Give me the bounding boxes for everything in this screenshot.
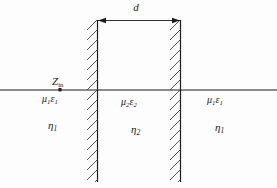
dimension-arrowhead-right <box>172 18 180 23</box>
label-mu2-eps2-middle: μ2ε2 <box>121 97 137 108</box>
label-eta2-middle: η2 <box>131 124 140 136</box>
label-thickness-d: d <box>133 2 139 13</box>
label-mu1-eps1-left: μ1ε1 <box>42 94 58 105</box>
left-wall <box>87 19 98 188</box>
dimension-line-d <box>98 18 180 23</box>
right-wall <box>170 19 181 188</box>
dielectric-slab-figure: d Zin μ1ε1 η1 μ2ε2 η2 μ1ε1 η1 <box>0 0 277 188</box>
dimension-arrowhead-left <box>98 18 106 23</box>
left-wall-hatching <box>87 19 98 188</box>
label-eta1-right: η1 <box>215 122 224 134</box>
right-wall-hatching <box>170 19 181 188</box>
label-eta1-left: η1 <box>48 120 57 132</box>
label-mu1-eps1-right: μ1ε1 <box>207 95 223 106</box>
label-input-impedance-zin: Zin <box>52 76 63 89</box>
